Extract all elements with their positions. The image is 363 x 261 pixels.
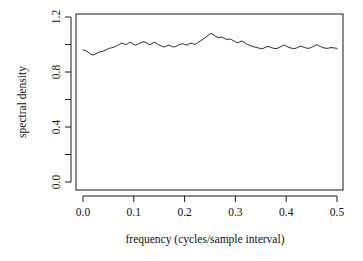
x-axis: [83, 196, 337, 202]
x-tick-label: 0.4: [279, 206, 294, 218]
x-axis-title: frequency (cycles/sample interval): [125, 233, 284, 246]
x-tick-label: 0.5: [330, 206, 345, 218]
y-tick-label: 0.8: [50, 65, 62, 80]
x-tick-label: 0.0: [76, 206, 91, 218]
x-tick-label: 0.2: [177, 206, 192, 218]
y-axis: [65, 17, 71, 182]
y-axis-tick-labels: 0.00.40.81.2: [50, 10, 62, 190]
x-tick-label: 0.1: [127, 206, 142, 218]
x-axis-tick-labels: 0.00.10.20.30.40.5: [76, 206, 345, 218]
plot-frame: [76, 14, 343, 190]
y-axis-title: spectral density: [16, 66, 29, 138]
y-tick-label: 0.4: [50, 120, 62, 135]
plot-canvas: 0.00.40.81.2 0.00.10.20.30.40.5 spectral…: [0, 0, 363, 261]
spectral-density-line: [83, 34, 337, 55]
spectral-density-figure: 0.00.40.81.2 0.00.10.20.30.40.5 spectral…: [0, 0, 363, 261]
y-tick-label: 0.0: [50, 175, 62, 190]
y-tick-label: 1.2: [50, 10, 62, 25]
x-tick-label: 0.3: [228, 206, 243, 218]
